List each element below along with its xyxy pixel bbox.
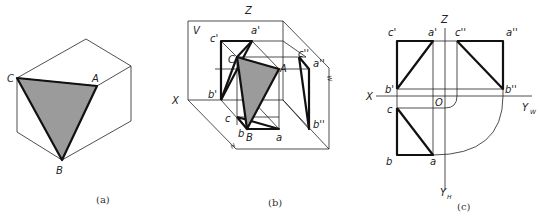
panel-b: Z V X c' a' b' C A B c'' a'' b'' c b a W…	[171, 5, 334, 208]
label-A: A	[91, 73, 99, 84]
label-C: C	[7, 73, 14, 84]
label-b-dprime: b''	[505, 84, 517, 95]
label-Yh: Y	[440, 187, 447, 198]
box-edge	[97, 66, 131, 86]
v-projection	[397, 41, 433, 89]
label-a: a	[430, 156, 436, 167]
label-a-dprime: a''	[506, 27, 518, 38]
label-a-dprime: a''	[313, 58, 325, 69]
caption-c: (c)	[457, 201, 471, 212]
label-c-dprime: c''	[455, 27, 466, 38]
label-b-dprime: b''	[313, 119, 325, 130]
label-c: c	[387, 104, 393, 115]
caption-a: (a)	[96, 194, 110, 205]
label-Yw: Y	[522, 102, 529, 113]
label-a-prime: a'	[428, 27, 437, 38]
label-B: B	[246, 132, 253, 143]
label-a-prime: a'	[251, 25, 260, 36]
label-Z: Z	[244, 5, 253, 16]
label-b-prime: b'	[208, 89, 217, 100]
label-A: A	[279, 63, 287, 74]
label-C: C	[228, 54, 235, 65]
h-projection	[397, 108, 433, 155]
label-c: c	[225, 113, 231, 124]
label-b: b	[238, 128, 244, 139]
label-Z: Z	[440, 14, 449, 25]
label-X: X	[171, 95, 180, 106]
label-c-prime: c'	[210, 33, 218, 44]
projection-diagram: C A B (a) Z V X	[0, 0, 540, 222]
label-B: B	[56, 165, 63, 176]
label-Yh-sub: H	[447, 193, 452, 200]
label-Yw-sub: W	[530, 108, 537, 115]
label-W: W	[326, 75, 334, 83]
label-X: X	[365, 91, 374, 102]
triangle-ABC	[17, 78, 97, 160]
caption-b: (b)	[268, 197, 282, 208]
panel-c: Z X O c' a' b' c'' a'' b'' c b a Y W Y H…	[365, 14, 537, 212]
transfer-arc-large	[433, 89, 503, 155]
label-O: O	[435, 97, 443, 108]
label-b-prime: b'	[385, 84, 394, 95]
label-a: a	[276, 132, 282, 143]
w-projection	[457, 41, 503, 89]
transfer-arc-small	[445, 96, 457, 108]
label-c-dprime: c''	[298, 48, 309, 59]
panel-a: C A B (a)	[7, 39, 131, 205]
label-c-prime: c'	[388, 27, 396, 38]
label-b: b	[386, 156, 392, 167]
label-V: V	[193, 25, 201, 36]
